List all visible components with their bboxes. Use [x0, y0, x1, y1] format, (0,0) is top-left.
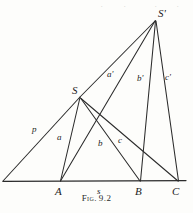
line-p-S-to-Sprime: [80, 21, 156, 98]
figure-caption-number: 9.2: [99, 193, 111, 203]
line-bprime-Sprime-to-B: [141, 21, 156, 181]
segment-label-b: b: [98, 139, 103, 148]
line-a-S-to-A: [61, 98, 81, 182]
line-b-S-to-B: [81, 98, 141, 181]
line-aprime-Sprime-to-A: [61, 21, 156, 181]
vertex-label-S-prime: S': [158, 8, 166, 19]
line-cprime-Sprime-to-C: [156, 21, 179, 181]
line-baseline: [3, 181, 186, 182]
geometry-drawing: [0, 0, 193, 213]
segment-label-p: p: [32, 125, 37, 134]
segment-label-a: a: [57, 133, 62, 142]
figure-caption: Fig.9.2: [0, 193, 193, 203]
figure-container: . . . . S' S A B C p s a b c a' b' c': [0, 0, 193, 213]
line-c-S-to-C: [81, 99, 178, 182]
figure-caption-prefix: Fig.: [82, 193, 97, 203]
segment-label-c: c: [118, 136, 122, 145]
segment-label-a-prime: a': [107, 70, 113, 79]
segment-label-c-prime: c': [165, 73, 171, 82]
segment-label-b-prime: b': [137, 74, 143, 83]
vertex-label-S: S: [72, 85, 78, 96]
